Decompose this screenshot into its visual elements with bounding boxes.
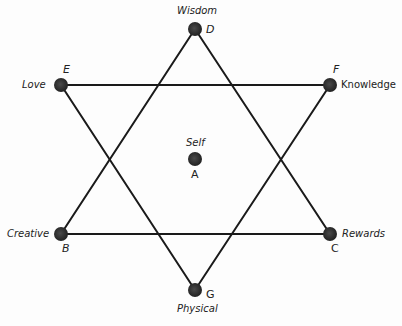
label-knowledge: Knowledge — [341, 80, 396, 90]
label-love: Love — [22, 80, 46, 90]
letter-f: F — [333, 64, 339, 75]
letter-b: B — [62, 243, 70, 254]
hexagram-diagram: Wisdom D Love E Knowledge F Self A Creat… — [0, 0, 402, 326]
letter-g: G — [206, 289, 215, 300]
node-f-icon — [323, 78, 337, 92]
label-physical: Physical — [177, 304, 218, 314]
label-creative: Creative — [7, 229, 49, 239]
star-lines — [0, 0, 402, 326]
letter-a: A — [191, 169, 199, 180]
node-b-icon — [54, 227, 68, 241]
node-g-icon — [188, 283, 202, 297]
label-rewards: Rewards — [342, 229, 385, 239]
label-self: Self — [186, 138, 205, 148]
letter-c: C — [331, 243, 339, 254]
letter-d: D — [206, 24, 214, 35]
letter-e: E — [63, 64, 70, 75]
downward-triangle — [61, 85, 330, 290]
label-wisdom: Wisdom — [177, 6, 217, 16]
node-d-icon — [188, 22, 202, 36]
node-e-icon — [54, 78, 68, 92]
node-c-icon — [323, 227, 337, 241]
node-a-icon — [188, 152, 202, 166]
upward-triangle — [61, 29, 330, 234]
